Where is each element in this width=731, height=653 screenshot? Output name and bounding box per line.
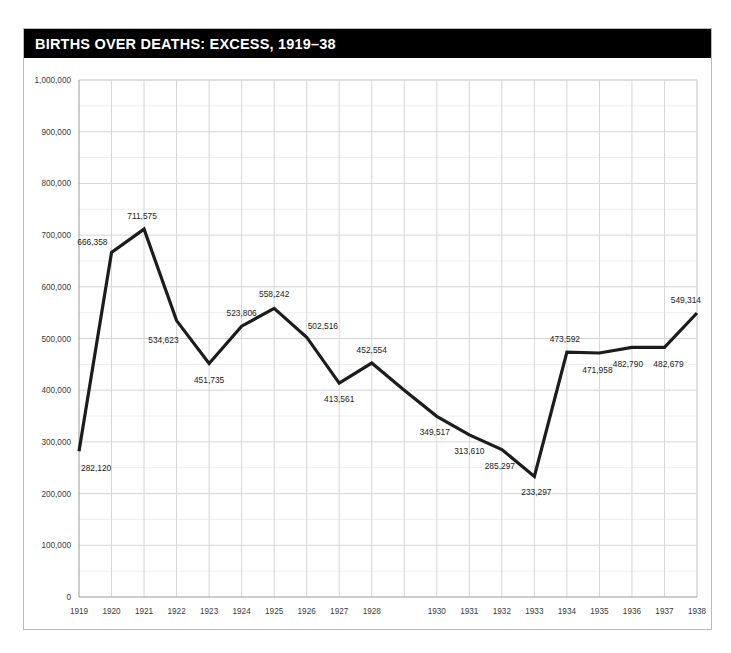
data-point-label: 282,120 xyxy=(81,463,112,473)
chart-card: BIRTHS OVER DEATHS: EXCESS, 1919–38 0100… xyxy=(23,28,712,630)
y-tick-label: 0 xyxy=(66,593,71,602)
data-point-label: 313,610 xyxy=(454,446,485,456)
data-point-label: 502,516 xyxy=(308,321,339,331)
series-polyline xyxy=(79,229,697,476)
data-point-label: 666,358 xyxy=(77,237,108,247)
x-tick-label: 1938 xyxy=(688,607,707,616)
x-tick-label: 1934 xyxy=(558,607,577,616)
y-tick-label: 500,000 xyxy=(41,335,71,344)
data-point-label: 452,554 xyxy=(357,345,388,355)
line-chart: 0100,000200,000300,000400,000500,000600,… xyxy=(24,58,711,629)
y-tick-label: 100,000 xyxy=(41,541,71,550)
x-tick-label: 1926 xyxy=(298,607,317,616)
y-tick-label: 700,000 xyxy=(41,231,71,240)
data-point-label: 349,517 xyxy=(420,427,451,437)
data-point-label: 233,297 xyxy=(521,487,552,497)
data-point-label: 482,679 xyxy=(653,359,684,369)
x-tick-label: 1931 xyxy=(460,607,479,616)
chart-page: BIRTHS OVER DEATHS: EXCESS, 1919–38 0100… xyxy=(0,0,731,653)
x-tick-label: 1928 xyxy=(363,607,382,616)
x-tick-label: 1924 xyxy=(233,607,252,616)
x-tick-label: 1933 xyxy=(525,607,544,616)
x-tick-label: 1925 xyxy=(265,607,284,616)
x-tick-label: 1919 xyxy=(70,607,89,616)
chart-header-bar: BIRTHS OVER DEATHS: EXCESS, 1919–38 xyxy=(24,29,711,58)
x-tick-label: 1920 xyxy=(102,607,121,616)
data-point-label: 482,790 xyxy=(613,359,644,369)
x-tick-label: 1937 xyxy=(655,607,674,616)
data-point-labels: 282,120666,358711,575534,623451,735523,8… xyxy=(77,211,701,497)
x-axis-tick-labels: 1919192019211922192319241925192619271928… xyxy=(70,607,707,616)
y-tick-label: 400,000 xyxy=(41,386,71,395)
chart-title: BIRTHS OVER DEATHS: EXCESS, 1919–38 xyxy=(35,36,336,52)
data-point-label: 534,623 xyxy=(148,335,179,345)
data-point-label: 558,242 xyxy=(259,289,290,299)
data-point-label: 285,297 xyxy=(485,461,516,471)
y-tick-label: 200,000 xyxy=(41,490,71,499)
x-tick-label: 1927 xyxy=(330,607,349,616)
plot-area: 0100,000200,000300,000400,000500,000600,… xyxy=(24,58,711,629)
data-point-label: 471,958 xyxy=(582,365,613,375)
data-point-label: 523,806 xyxy=(226,308,257,318)
x-tick-label: 1935 xyxy=(590,607,609,616)
x-tick-label: 1922 xyxy=(167,607,186,616)
x-tick-label: 1921 xyxy=(135,607,154,616)
data-point-label: 451,735 xyxy=(194,375,225,385)
x-tick-label: 1923 xyxy=(200,607,219,616)
data-series-line xyxy=(79,229,697,476)
data-point-label: 473,592 xyxy=(550,334,581,344)
y-tick-label: 1,000,000 xyxy=(35,76,72,85)
data-point-label: 413,561 xyxy=(324,394,355,404)
x-tick-label: 1936 xyxy=(623,607,642,616)
y-tick-label: 900,000 xyxy=(41,128,71,137)
data-point-label: 549,314 xyxy=(671,295,702,305)
x-tick-label: 1932 xyxy=(493,607,512,616)
y-axis-tick-labels: 0100,000200,000300,000400,000500,000600,… xyxy=(35,76,72,602)
x-tick-label: 1930 xyxy=(428,607,447,616)
y-tick-label: 300,000 xyxy=(41,438,71,447)
data-point-label: 711,575 xyxy=(127,211,157,221)
y-tick-label: 800,000 xyxy=(41,179,71,188)
y-tick-label: 600,000 xyxy=(41,283,71,292)
